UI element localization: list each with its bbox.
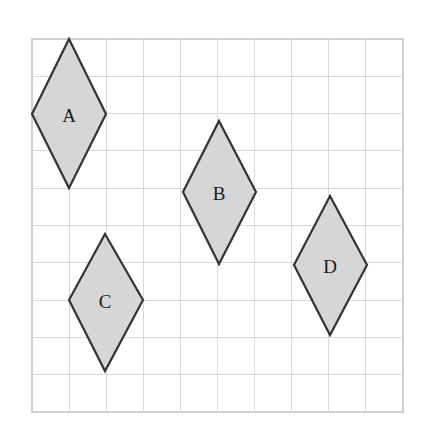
rhombus-b-label: B xyxy=(213,183,226,204)
grid-figure: ABCD xyxy=(0,0,424,431)
rhombus-c-label: C xyxy=(99,291,112,312)
rhombus-a-label: A xyxy=(62,105,76,126)
figure-canvas: ABCD xyxy=(0,0,424,431)
rhombus-d-label: D xyxy=(323,256,337,277)
